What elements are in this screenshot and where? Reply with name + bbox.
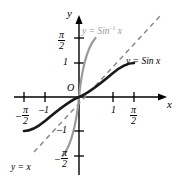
identity-line-label: y = x [11, 163, 31, 173]
y-tick-label-one: 1 [63, 57, 68, 67]
x-axis-label: x [167, 99, 172, 110]
x-tick-label-pi-over-2: π 2 [130, 105, 137, 126]
arcsine-label-arg: x [118, 26, 122, 36]
y-tick-pi-denominator: 2 [58, 41, 65, 51]
x-tick-pi-denominator: 2 [130, 116, 137, 126]
sine-label-prefix: y = Sin [126, 56, 154, 66]
x-axis [14, 93, 167, 100]
origin-label: O [67, 83, 74, 93]
x-tick-negative-sign: – [16, 110, 21, 120]
y-axis-label: y [67, 8, 72, 19]
sine-arcsine-graph-figure: y x O π 2 1 –1 – π 2 – π 2 –1 1 π 2 y = … [0, 0, 180, 185]
y-tick-label-negative-one: –1 [57, 125, 67, 135]
sine-curve-label: y = Sin x [126, 57, 160, 67]
arcsine-label-exponent: –1 [110, 25, 116, 31]
arcsine-curve-label: y = Sin–1 x [82, 26, 122, 37]
x-tick-label-one: 1 [111, 105, 116, 115]
y-tick-negative-sign: – [55, 153, 60, 163]
x-tick-neg-pi-denominator: 2 [22, 116, 29, 126]
y-tick-label-negative-pi-over-2: – π 2 [61, 148, 68, 169]
arcsine-label-prefix: y = Sin [82, 26, 110, 36]
x-tick-label-negative-pi-over-2: – π 2 [22, 105, 29, 126]
sine-label-arg: x [156, 56, 160, 66]
x-tick-label-negative-one: –1 [39, 105, 49, 115]
y-tick-neg-pi-denominator: 2 [61, 159, 68, 169]
y-tick-label-pi-over-2: π 2 [58, 30, 65, 51]
